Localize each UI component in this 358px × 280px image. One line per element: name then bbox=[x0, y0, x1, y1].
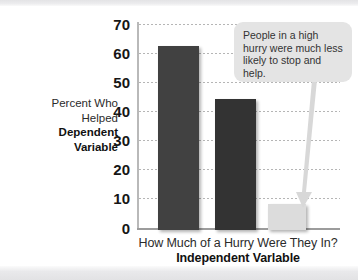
y-axis-title: Percent Who Helped Dependent Variable bbox=[6, 96, 118, 154]
y-axis-title-line4: Variable bbox=[6, 140, 118, 155]
y-tick-20: 20 bbox=[96, 162, 130, 177]
x-axis-title-line1: How Much of a Hurry Were They In? bbox=[118, 236, 358, 251]
y-tick-50: 50 bbox=[96, 75, 130, 90]
y-tick-0: 0 bbox=[96, 221, 130, 236]
y-axis-title-line2: Helped bbox=[6, 111, 118, 126]
chart-figure: 70 60 50 40 30 20 10 0 Percent Who Helpe… bbox=[0, 0, 358, 280]
y-axis-title-line1: Percent Who bbox=[6, 96, 118, 111]
callout-bubble: People in a high hurry were much less li… bbox=[234, 22, 352, 82]
callout-text: People in a high hurry were much less li… bbox=[243, 29, 344, 79]
y-tick-70: 70 bbox=[96, 17, 130, 32]
y-tick-60: 60 bbox=[96, 46, 130, 61]
bar-low-hurry bbox=[268, 204, 306, 230]
bar-high-hurry bbox=[158, 46, 199, 230]
x-axis-title-line2: Independent Varlable bbox=[118, 251, 358, 266]
y-tick-10: 10 bbox=[96, 191, 130, 206]
x-axis-title: How Much of a Hurry Were They In? Indepe… bbox=[118, 236, 358, 266]
y-axis-title-line3: Dependent bbox=[6, 125, 118, 140]
bar-medium-hurry bbox=[215, 99, 256, 230]
